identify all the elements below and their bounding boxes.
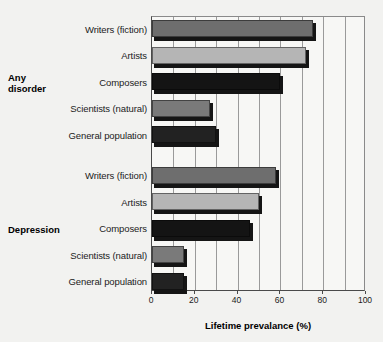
x-tick-label-40: 40 xyxy=(232,295,241,305)
category-label-writers-fiction: Writers (fiction) xyxy=(5,170,147,181)
bar-composers xyxy=(152,73,283,94)
bar-shadow xyxy=(154,117,213,121)
category-label-scientists-natural: Scientists (natural) xyxy=(5,103,147,114)
bar-face xyxy=(152,220,250,237)
bar-shadow xyxy=(280,76,283,94)
x-tick-mark-80 xyxy=(322,291,323,294)
bar-face xyxy=(152,167,276,184)
bar-shadow xyxy=(216,129,219,147)
bar-shadow xyxy=(306,50,309,68)
category-label-scientists-natural: Scientists (natural) xyxy=(5,250,147,261)
category-axis-labels: Writers (fiction)ArtistsComposersScienti… xyxy=(0,16,147,291)
bar-artists xyxy=(152,47,309,68)
bar-shadow xyxy=(210,103,213,121)
bar-face xyxy=(152,20,313,37)
bar-artists xyxy=(152,193,262,214)
bar-row xyxy=(152,246,366,267)
bar-face xyxy=(152,126,216,143)
bar-writers-fiction xyxy=(152,20,316,41)
category-label-artists: Artists xyxy=(5,197,147,208)
bar-row xyxy=(152,167,366,188)
x-axis-ticks: 020406080100 xyxy=(151,291,365,307)
bar-shadow xyxy=(276,170,279,188)
x-tick-label-80: 80 xyxy=(317,295,326,305)
category-label-general-population: General population xyxy=(5,130,147,141)
bar-face xyxy=(152,193,259,210)
bar-row xyxy=(152,20,366,41)
x-axis-title: Lifetime prevalance (%) xyxy=(151,320,365,331)
x-tick-label-0: 0 xyxy=(149,295,154,305)
bar-face xyxy=(152,246,184,263)
bar-face xyxy=(152,273,184,290)
bar-shadow xyxy=(184,249,187,267)
bar-shadow xyxy=(154,263,187,267)
plot-area xyxy=(151,16,365,291)
category-label-artists: Artists xyxy=(5,50,147,61)
bar-face xyxy=(152,73,280,90)
x-tick-label-60: 60 xyxy=(275,295,284,305)
bar-shadow xyxy=(313,23,316,41)
bar-shadow xyxy=(154,210,262,214)
bar-shadow xyxy=(154,37,316,41)
x-tick-mark-0 xyxy=(151,291,152,294)
bar-face xyxy=(152,100,210,117)
x-tick-mark-60 xyxy=(279,291,280,294)
category-label-composers: Composers xyxy=(5,77,147,88)
bar-general-population xyxy=(152,126,219,147)
bar-row xyxy=(152,126,366,147)
bar-composers xyxy=(152,220,253,241)
bar-shadow xyxy=(154,184,279,188)
bar-scientists-natural xyxy=(152,246,187,267)
bar-shadow xyxy=(154,237,253,241)
x-tick-mark-40 xyxy=(237,291,238,294)
chart-figure: Anydisorder Depression Writers (fiction)… xyxy=(0,0,383,342)
bar-row xyxy=(152,193,366,214)
bar-shadow xyxy=(154,143,219,147)
bar-shadow xyxy=(154,90,283,94)
x-tick-label-20: 20 xyxy=(189,295,198,305)
bar-shadow xyxy=(154,64,309,68)
category-label-general-population: General population xyxy=(5,276,147,287)
bar-row xyxy=(152,47,366,68)
x-tick-label-100: 100 xyxy=(358,295,372,305)
bar-scientists-natural xyxy=(152,100,213,121)
category-label-composers: Composers xyxy=(5,223,147,234)
bar-shadow xyxy=(259,196,262,214)
x-tick-mark-100 xyxy=(365,291,366,294)
bar-row xyxy=(152,73,366,94)
bar-row xyxy=(152,220,366,241)
x-tick-mark-20 xyxy=(194,291,195,294)
category-label-writers-fiction: Writers (fiction) xyxy=(5,24,147,35)
bar-row xyxy=(152,100,366,121)
bar-face xyxy=(152,47,306,64)
bar-shadow xyxy=(250,223,253,241)
bar-writers-fiction xyxy=(152,167,279,188)
